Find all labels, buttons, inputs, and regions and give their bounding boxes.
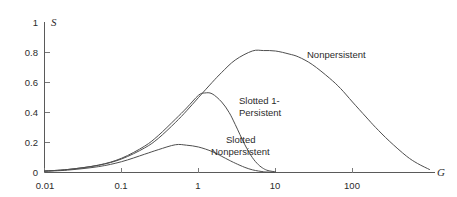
- y-tick-label-1: 1: [33, 17, 38, 28]
- x-axis-ticks: [45, 168, 353, 173]
- series-label-slotted-1-persistent-line1: Slotted 1-: [239, 95, 280, 106]
- y-tick-label-0.4: 0.4: [25, 107, 38, 118]
- y-axis-ticks: [45, 53, 50, 143]
- chart-plot-area: 1 0.8 0.6 0.4 0.2 0 0.01 0.1 1 10 100 S …: [0, 0, 457, 197]
- y-tick-label-0: 0: [33, 167, 38, 178]
- y-tick-label-0.2: 0.2: [25, 137, 38, 148]
- x-tick-label-1: 1: [195, 180, 200, 191]
- chart-container: 1 0.8 0.6 0.4 0.2 0 0.01 0.1 1 10 100 S …: [0, 0, 457, 197]
- series-label-nonpersistent: Nonpersistent: [307, 49, 366, 60]
- x-tick-label-0.1: 0.1: [114, 180, 127, 191]
- y-axis-title: S: [51, 16, 57, 28]
- series-label-slotted-nonpersistent-line2: Nonpersistent: [211, 146, 270, 157]
- series-label-slotted-nonpersistent-line1: Slotted: [226, 134, 256, 145]
- y-tick-label-0.8: 0.8: [25, 47, 38, 58]
- x-axis-title: G: [437, 166, 445, 178]
- x-tick-label-0.01: 0.01: [36, 180, 55, 191]
- y-tick-label-0.6: 0.6: [25, 77, 38, 88]
- x-tick-label-10: 10: [270, 180, 281, 191]
- x-tick-label-100: 100: [344, 180, 360, 191]
- series-label-slotted-1-persistent-line2: Persistent: [239, 107, 282, 118]
